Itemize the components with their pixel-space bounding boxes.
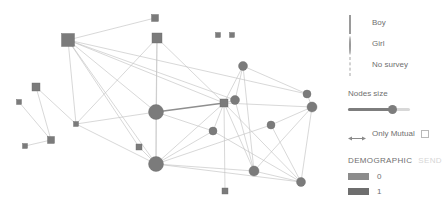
graph-edge [254,107,312,171]
graph-node[interactable] [152,33,162,43]
graph-node[interactable] [17,100,22,105]
nodes-size-slider[interactable] [348,104,410,115]
graph-node[interactable] [303,90,311,98]
demographic-swatch-0[interactable]: 0 [348,172,445,181]
demographic-tabs: DEMOGRAPHIC SEND [348,156,445,165]
graph-node[interactable] [297,178,306,187]
graph-edge [254,171,301,182]
graph-node[interactable] [62,34,75,47]
legend-item-boy-label: Boy [372,18,386,28]
graph-node[interactable] [209,127,217,135]
graph-edge [68,40,307,94]
legend-item-no-survey[interactable]: No survey [348,55,445,75]
graph-edge [156,103,224,112]
demographic-swatch-1[interactable]: 1 [348,187,445,196]
graph-edge [271,107,312,125]
graph-edge [25,140,51,146]
legend-panel: Boy Girl No survey Nodes size [340,0,445,212]
only-mutual-checkbox[interactable] [421,130,429,138]
tab-send[interactable]: SEND [418,156,442,165]
graph-edge [224,103,301,182]
graph-node[interactable] [307,102,317,112]
graph-edge [68,40,139,147]
graph-edge [68,40,156,164]
graph-edge [157,38,224,103]
graph-node[interactable] [149,105,164,120]
demographic-swatch-0-label: 0 [377,172,381,181]
graph-edge [36,87,76,124]
network-visualization: Boy Girl No survey Nodes size [0,0,445,212]
graph-edge [224,103,254,171]
graph-edge [235,100,254,171]
graph-edge [68,40,235,100]
nodes-size-label: Nodes size [348,89,445,98]
graph-edge [36,87,51,140]
graph-node[interactable] [23,144,28,149]
legend-item-girl[interactable]: Girl [348,34,445,54]
legend-item-boy[interactable]: Boy [348,13,445,33]
graph-edge [235,66,243,100]
nodes-size-control: Nodes size [348,89,445,115]
graph-node[interactable] [231,96,240,105]
graph-node[interactable] [220,99,228,107]
color-swatch [348,173,369,180]
graph-node[interactable] [239,62,248,71]
tab-demographic[interactable]: DEMOGRAPHIC [348,156,412,165]
graph-node[interactable] [216,33,221,38]
only-mutual-label: Only Mutual [372,129,415,138]
graph-edge [19,102,51,140]
demographic-swatch-1-label: 1 [377,187,381,196]
color-swatch [348,188,369,195]
graph-edge [68,18,155,40]
circle-icon [348,37,363,52]
network-graph-svg[interactable] [0,0,340,212]
double-arrow-icon [348,129,366,138]
graph-edge [156,164,301,182]
graph-node[interactable] [222,188,228,194]
graph-node[interactable] [267,121,275,129]
graph-edge [68,40,76,124]
graph-node[interactable] [149,157,164,172]
slider-handle[interactable] [388,105,397,114]
graph-edge [68,40,156,112]
dashed-square-icon [348,58,363,73]
graph-edge [243,66,307,94]
slider-fill [348,108,393,111]
demographic-section: DEMOGRAPHIC SEND 0 1 [348,156,445,196]
graph-node[interactable] [74,122,79,127]
graph-edge [224,103,225,191]
graph-node[interactable] [136,144,142,150]
node-layer[interactable] [17,15,318,195]
graph-edge [301,107,312,182]
legend-item-no-survey-label: No survey [372,60,408,70]
graph-edge [76,124,156,164]
graph-node[interactable] [152,15,159,22]
graph-node[interactable] [32,83,40,91]
graph-canvas[interactable] [0,0,340,212]
graph-edge [156,112,213,131]
graph-node[interactable] [48,137,55,144]
graph-edge [76,112,156,124]
square-icon [348,16,363,31]
graph-node[interactable] [230,33,235,38]
only-mutual-control[interactable]: Only Mutual [348,129,445,138]
graph-node[interactable] [249,166,259,176]
legend-item-girl-label: Girl [372,39,384,49]
